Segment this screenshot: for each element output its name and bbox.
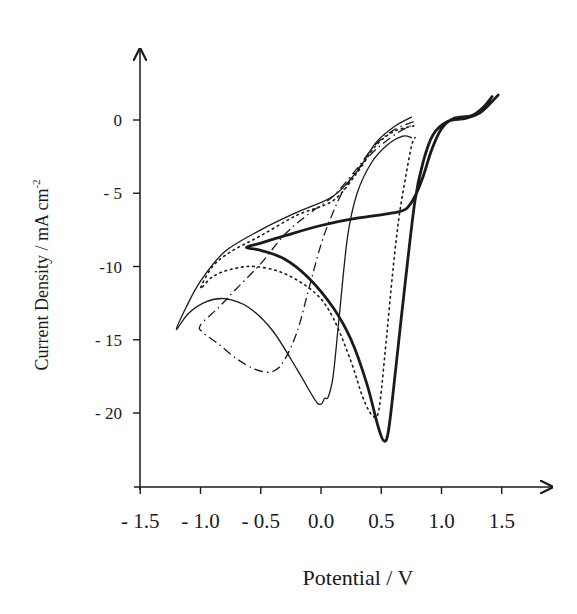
svg-text:Current Density / mA cm-2: Current Density / mA cm-2 xyxy=(30,179,52,370)
x-tick-label: 0.0 xyxy=(308,509,334,533)
y-axis-ticks: 0- 5-10- 15- 20 xyxy=(95,111,140,423)
data-series xyxy=(176,95,498,441)
x-axis-title: Potential / V xyxy=(303,565,414,590)
x-tick-label: - 1.5 xyxy=(121,509,160,533)
x-tick-label: - 1.0 xyxy=(181,509,220,533)
x-tick-label: 1.5 xyxy=(489,509,515,533)
y-axis-title-superscript: -2 xyxy=(30,179,42,188)
x-tick-label: - 0.5 xyxy=(242,509,281,533)
y-axis-title-text: Current Density / mA cm xyxy=(32,189,52,371)
series-dotted xyxy=(201,126,416,418)
y-axis-title: Current Density / mA cm-2 xyxy=(30,179,52,370)
x-axis-ticks: - 1.5- 1.0- 0.50.00.51.01.5 xyxy=(121,487,515,533)
y-tick-label: -10 xyxy=(99,258,122,277)
x-tick-label: 1.0 xyxy=(428,509,454,533)
series-thin-solid xyxy=(176,117,411,404)
y-tick-label: - 15 xyxy=(95,331,122,350)
x-tick-label: 0.5 xyxy=(368,509,394,533)
y-tick-label: 0 xyxy=(114,111,123,130)
y-tick-label: - 20 xyxy=(95,404,122,423)
y-tick-label: - 5 xyxy=(104,184,122,203)
cyclic-voltammogram-chart: 0- 5-10- 15- 20 - 1.5- 1.0- 0.50.00.51.0… xyxy=(0,0,577,614)
